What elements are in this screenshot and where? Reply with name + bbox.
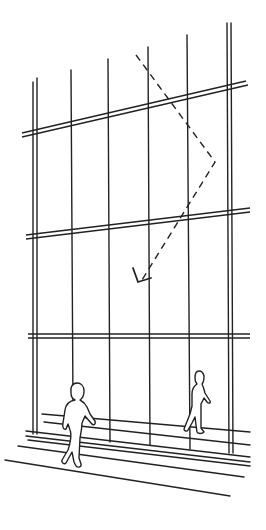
illustration-canvas: Glass curtain wall facade with pedestria… (0, 0, 266, 530)
pedestrian-figure-left (62, 383, 95, 467)
transom-middle-lower (26, 212, 250, 239)
base-line-2 (26, 436, 250, 462)
mullion-right-outer (227, 23, 229, 453)
pedestrian-figure-right (184, 371, 210, 434)
reflection-path (133, 55, 215, 282)
mullion-2 (71, 70, 73, 405)
arrowhead-icon (133, 268, 151, 282)
transoms (22, 81, 250, 338)
facade-drawing (0, 0, 266, 530)
transom-top-lower (22, 85, 248, 137)
transom-middle-upper (26, 208, 250, 235)
mullion-5 (187, 35, 190, 449)
transom-top-upper (22, 81, 246, 133)
street-edge (5, 460, 230, 496)
mullion-4 (148, 47, 150, 445)
mullion-right-inner (231, 23, 233, 453)
